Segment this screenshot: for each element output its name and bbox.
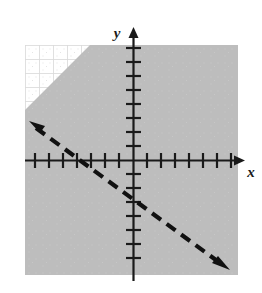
coordinate-plane-svg: y x [0, 0, 262, 293]
graph-figure: y x [0, 0, 262, 293]
x-axis-label: x [246, 164, 255, 180]
y-axis-label: y [112, 25, 121, 41]
